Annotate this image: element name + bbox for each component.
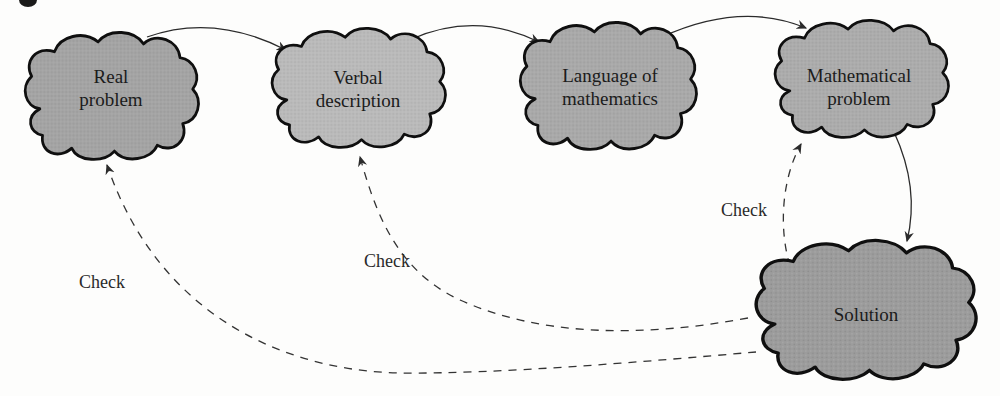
cloud-label-language-line2: mathematics [562, 88, 658, 109]
arrow-mathproblem-to-solution [894, 132, 911, 241]
check-arrow-solution-to-verbal [360, 157, 748, 331]
check-label-verbal: Check [364, 251, 410, 271]
cloud-solution: Solution [756, 240, 976, 379]
cloud-label-language-line1: Language of [562, 65, 658, 86]
check-arrow-solution-to-mathproblem [783, 144, 801, 266]
cloud-label-mathproblem-line2: problem [827, 88, 891, 109]
cloud-mathematical-problem: Mathematical problem [775, 20, 948, 137]
cloud-real-problem: Real problem [25, 32, 198, 159]
cloud-label-verbal-line1: Verbal [333, 67, 383, 88]
check-arrow-solution-to-real [107, 165, 756, 373]
cloud-verbal-description: Verbal description [272, 28, 445, 147]
modeling-process-diagram: Real problem Verbal description Language… [0, 0, 1000, 396]
cloud-label-real-line2: problem [79, 89, 143, 110]
cloud-label-verbal-line2: description [316, 90, 401, 111]
cloud-label-real-line1: Real [94, 66, 129, 87]
cloud-language-of-mathematics: Language of mathematics [520, 22, 696, 149]
check-arrows [107, 144, 801, 373]
check-label-mathproblem: Check [721, 200, 767, 220]
arrow-verbal-to-language [412, 26, 539, 42]
check-label-real: Check [79, 272, 125, 292]
cloud-label-solution: Solution [834, 304, 899, 325]
cropped-caption-fragment [19, 0, 37, 7]
arrow-language-to-mathproblem [662, 16, 806, 37]
cloud-label-mathproblem-line1: Mathematical [807, 65, 911, 86]
